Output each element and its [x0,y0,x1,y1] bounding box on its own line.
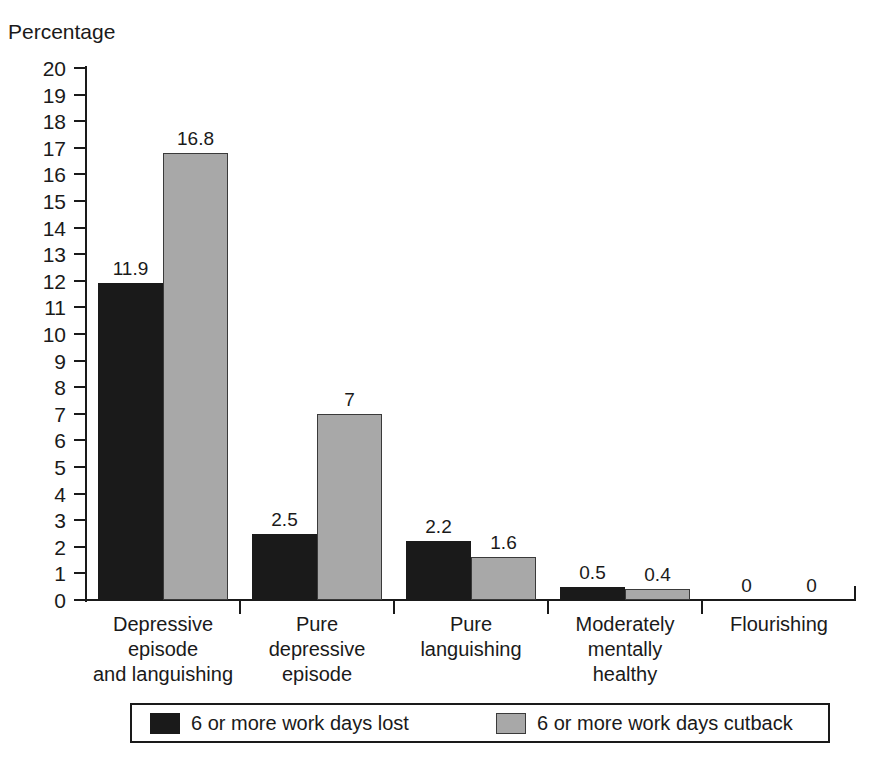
y-axis-tick-label: 8 [6,377,66,398]
bar-value-label: 2.5 [245,510,325,529]
x-axis-category-label-line: mentally [533,637,717,662]
y-axis-tick-label: 7 [6,404,66,425]
y-axis-tick-label: 5 [6,457,66,478]
y-axis-tick [74,599,85,601]
y-axis-tick-label: 15 [6,191,66,212]
bar [98,283,163,600]
y-axis-tick-label: 9 [6,351,66,372]
y-axis-tick-label: 10 [6,324,66,345]
y-axis-tick [74,94,85,96]
bar [625,589,690,600]
x-axis-category-label-line: episode [225,662,409,687]
y-axis-tick [74,413,85,415]
y-axis-tick [74,227,85,229]
bar-value-label: 1.6 [464,533,544,552]
y-axis-tick [74,200,85,202]
y-axis-tick [74,360,85,362]
bar [317,414,382,600]
y-axis-tick-label: 12 [6,271,66,292]
legend-label: 6 or more work days lost [191,713,409,733]
x-axis-category-label-line: healthy [533,662,717,687]
y-axis-tick [74,333,85,335]
chart-legend: 6 or more work days lost6 or more work d… [130,703,830,743]
bar-value-label: 7 [310,390,390,409]
legend-swatch-icon [150,713,180,734]
y-axis-tick-label: 20 [6,58,66,79]
bar-chart: Percentage 20191817161514131211109876543… [0,0,876,765]
y-axis-tick-label: 14 [6,218,66,239]
y-axis-tick [74,280,85,282]
bar [252,534,317,601]
y-axis-tick-label: 17 [6,138,66,159]
bar [560,587,625,600]
legend-label: 6 or more work days cutback [537,713,793,733]
y-axis-tick [74,572,85,574]
y-axis-tick [74,546,85,548]
y-axis-tick-label: 4 [6,484,66,505]
y-axis-line [85,66,87,602]
y-axis-tick [74,519,85,521]
y-axis-tick [74,493,85,495]
bar [163,153,228,600]
bar-value-label: 11.9 [91,259,171,278]
bar [471,557,536,600]
y-axis-tick-label: 13 [6,244,66,265]
y-axis-tick [74,386,85,388]
y-axis-tick-label: 2 [6,537,66,558]
x-axis-category-label: Flourishing [687,612,871,637]
y-axis-tick-label: 18 [6,111,66,132]
legend-entry: 6 or more work days lost [150,705,409,741]
y-axis-tick-label: 1 [6,563,66,584]
y-axis-tick-label: 3 [6,510,66,531]
y-axis-tick-label: 19 [6,85,66,106]
y-axis-tick [74,67,85,69]
y-axis-tick [74,173,85,175]
y-axis-tick-label: 11 [6,297,66,318]
legend-swatch-icon [496,713,526,734]
bar [406,541,471,600]
bar-value-label: 0 [772,576,852,595]
y-axis-tick [74,120,85,122]
y-axis-tick-label: 16 [6,164,66,185]
y-axis-tick [74,253,85,255]
y-axis-tick-label: 0 [6,590,66,611]
legend-entry: 6 or more work days cutback [496,705,793,741]
y-axis-tick-label: 6 [6,430,66,451]
x-axis-end-tick [854,586,856,600]
y-axis-title: Percentage [8,20,115,44]
y-axis-tick [74,439,85,441]
bar-value-label: 0.4 [618,565,698,584]
x-axis-category-label-line: Flourishing [687,612,871,637]
y-axis-tick [74,147,85,149]
bar-value-label: 16.8 [156,129,236,148]
y-axis-tick [74,466,85,468]
y-axis-tick [74,306,85,308]
